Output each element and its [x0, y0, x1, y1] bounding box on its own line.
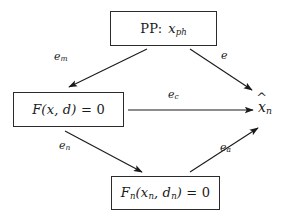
edge-label-e-c: ec [168, 88, 179, 101]
label-separator: : [158, 21, 163, 36]
x-hat-group: ^x [258, 99, 266, 115]
continuous-model-label: F(x, d) = 0 [32, 102, 105, 117]
edge-label-e-n: en [59, 139, 70, 152]
computed-solution-label: ^xn [258, 99, 272, 115]
arrow-e-n [65, 131, 142, 172]
function-Fn: F [121, 185, 130, 200]
variable-x: x [168, 21, 176, 36]
function-F-args: (x, d) [41, 102, 76, 117]
edge-label-e-m: em [54, 50, 68, 63]
physical-problem-node[interactable]: PP:xph [110, 11, 217, 46]
arrow-e-m [69, 49, 147, 87]
discrete-model-node[interactable]: Fn(xn, dn) = 0 [111, 176, 220, 210]
hat-accent-icon: ^ [256, 92, 267, 105]
error-propagation-diagram: PP:xph F(x, d) = 0 Fn(xn, dn) = 0 ^xn em… [0, 0, 287, 218]
continuous-model-node[interactable]: F(x, d) = 0 [13, 92, 124, 127]
function-F-equals: = 0 [81, 102, 105, 117]
edge-label-e: e [221, 49, 228, 62]
edge-label-e-a: ea [220, 141, 231, 154]
variable-x-subscript: ph [176, 26, 187, 36]
physical-problem-label: PP:xph [140, 21, 187, 37]
function-Fn-equals: = 0 [186, 185, 210, 200]
discrete-model-label: Fn(xn, dn) = 0 [121, 185, 210, 201]
function-F: F [32, 102, 41, 117]
computed-solution-node[interactable]: ^xn [258, 99, 272, 116]
variable-x-hat-subscript: n [266, 105, 272, 116]
